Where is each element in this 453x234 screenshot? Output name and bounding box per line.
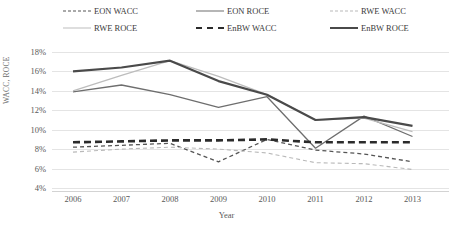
legend-item-rwe-wacc: RWE WACC [330,6,406,16]
y-tick-label: 10% [6,125,46,135]
legend-item-rwe-roce: RWE ROCE [63,23,137,33]
legend-label-eon-wacc: EON WACC [94,6,138,16]
x-tick-label: 2009 [194,194,244,204]
y-tick-label: 16% [6,66,46,76]
x-tick-label: 2006 [48,194,98,204]
legend-swatch-eon-roce [196,7,224,16]
y-tick-label: 12% [6,105,46,115]
legend-swatch-enbw-wacc [196,24,224,33]
legend-item-enbw-roce: EnBW ROCE [330,23,409,33]
series-line-enbw-wacc [73,139,413,142]
legend-label-eon-roce: EON ROCE [227,6,269,16]
y-tick-label: 6% [6,164,46,174]
legend-label-rwe-wacc: RWE WACC [361,6,406,16]
series-lines [52,44,449,192]
x-axis-tick-labels: 20062007200820092010201120122013 [0,194,453,208]
legend-label-enbw-roce: EnBW ROCE [361,23,409,33]
series-line-rwe-wacc [73,147,413,169]
x-tick-label: 2007 [97,194,147,204]
x-tick-label: 2010 [242,194,292,204]
series-line-rwe-roce [73,61,413,132]
legend-swatch-eon-wacc [63,7,91,16]
legend-swatch-enbw-roce [330,24,358,33]
plot-area: WACC, ROCE 18%16%14%12%10%8%6%4% [0,44,453,192]
x-tick-label: 2012 [339,194,389,204]
legend-item-enbw-wacc: EnBW WACC [196,23,277,33]
x-tick-label: 2008 [145,194,195,204]
legend-item-eon-roce: EON ROCE [196,6,269,16]
y-tick-label: 14% [6,86,46,96]
y-tick-label: 18% [6,47,46,57]
x-tick-label: 2013 [388,194,438,204]
legend-swatch-rwe-wacc [330,7,358,16]
series-line-enbw-roce [73,61,413,126]
x-axis-title: Year [0,210,453,220]
chart-legend: EON WACC EON ROCE RWE WACC RWE ROCE EnBW… [0,6,453,42]
y-tick-label: 8% [6,144,46,154]
legend-swatch-rwe-roce [63,24,91,33]
y-tick-label: 4% [6,183,46,193]
y-axis-tick-labels: 18%16%14%12%10%8%6%4% [6,44,46,192]
legend-label-enbw-wacc: EnBW WACC [227,23,277,33]
legend-label-rwe-roce: RWE ROCE [94,23,137,33]
x-tick-label: 2011 [291,194,341,204]
legend-item-eon-wacc: EON WACC [63,6,138,16]
line-chart: EON WACC EON ROCE RWE WACC RWE ROCE EnBW… [0,0,453,234]
